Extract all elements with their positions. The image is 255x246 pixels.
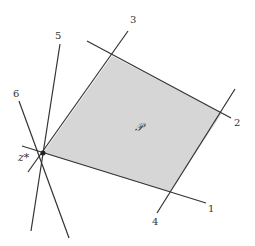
line-label-3: 3 — [130, 14, 136, 25]
point-label-z-star: z* — [17, 151, 30, 164]
line-label-1: 1 — [208, 203, 214, 214]
line-label-5: 5 — [55, 30, 61, 41]
line-label-4: 4 — [152, 216, 158, 227]
feasible-region-polygon — [43, 56, 222, 192]
constraint-line-6 — [19, 101, 69, 238]
line-label-6: 6 — [13, 88, 19, 99]
optimal-point-z-star — [41, 151, 46, 156]
polytope-diagram: 1 2 3 4 5 6 𝒫 z* — [0, 0, 255, 246]
line-label-2: 2 — [234, 117, 240, 128]
